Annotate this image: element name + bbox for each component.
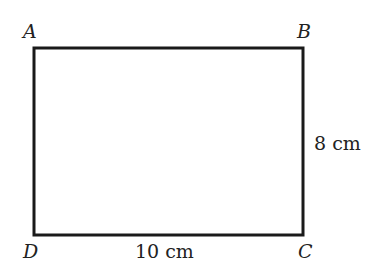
vertex-label-b: B: [297, 22, 311, 41]
vertex-label-d: D: [23, 242, 38, 261]
height-label: 8 cm: [314, 134, 361, 153]
width-label: 10 cm: [135, 242, 194, 261]
vertex-label-a: A: [23, 22, 37, 41]
rectangle-abcd: [34, 48, 303, 235]
vertex-label-c: C: [298, 242, 313, 261]
